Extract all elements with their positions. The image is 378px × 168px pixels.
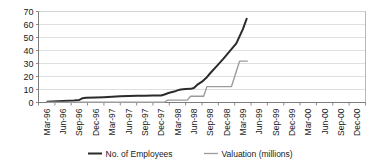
y-tick-label: 30 xyxy=(23,59,33,69)
y-tick-label: 0 xyxy=(28,98,33,108)
x-tick-label: Mar-96 xyxy=(42,108,52,135)
chart-canvas: 010203040506070Mar-96Jun-96Sep-96Dec-96M… xyxy=(0,0,378,168)
x-tick-label: Jun-98 xyxy=(189,108,199,134)
y-tick-label: 20 xyxy=(23,72,33,82)
gridlines xyxy=(39,12,366,90)
x-tick-label: Jun-00 xyxy=(320,108,330,134)
legend-label-employees: No. of Employees xyxy=(106,149,173,159)
legend-label-valuation: Valuation (millions) xyxy=(222,149,293,159)
x-tick-label: Mar-00 xyxy=(303,108,313,135)
line-chart: 010203040506070Mar-96Jun-96Sep-96Dec-96M… xyxy=(0,0,378,168)
x-tick-label: Jun-97 xyxy=(124,108,134,134)
x-tick-label: Dec-98 xyxy=(222,108,232,136)
x-tick-marks xyxy=(39,103,366,106)
y-tick-label: 50 xyxy=(23,33,33,43)
x-tick-label: Mar-97 xyxy=(107,108,117,135)
x-tick-label: Jun-96 xyxy=(58,108,68,134)
y-tick-label: 70 xyxy=(23,7,33,17)
x-tick-label: Mar-99 xyxy=(238,108,248,135)
series-line-employees xyxy=(47,18,247,102)
x-tick-label: Mar-98 xyxy=(173,108,183,135)
x-tick-label: Sep-96 xyxy=(74,108,84,136)
y-axis-labels: 010203040506070 xyxy=(23,7,33,108)
y-tick-label: 40 xyxy=(23,46,33,56)
x-tick-label: Dec-99 xyxy=(287,108,297,136)
x-tick-label: Sep-99 xyxy=(271,108,281,136)
x-tick-label: Jun-99 xyxy=(254,108,264,134)
plot-frame xyxy=(39,12,366,103)
x-axis-labels: Mar-96Jun-96Sep-96Dec-96Mar-97Jun-97Sep-… xyxy=(42,108,363,136)
x-tick-label: Sep-98 xyxy=(205,108,215,136)
y-tick-label: 60 xyxy=(23,20,33,30)
x-tick-label: Sep-00 xyxy=(336,108,346,136)
x-tick-label: Sep-97 xyxy=(140,108,150,136)
y-tick-label: 10 xyxy=(23,85,33,95)
x-tick-label: Dec-00 xyxy=(352,108,362,136)
x-tick-label: Dec-96 xyxy=(91,108,101,136)
legend: No. of EmployeesValuation (millions) xyxy=(88,149,293,159)
axes xyxy=(39,12,366,103)
x-tick-label: Dec-97 xyxy=(156,108,166,136)
